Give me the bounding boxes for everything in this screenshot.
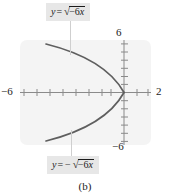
- y-axis-min-label: −6: [112, 141, 124, 152]
- callout-lower-equation: y=−√−6x: [47, 156, 99, 174]
- callout-connector-lower: [71, 130, 72, 157]
- x-axis-max-label: 2: [156, 86, 162, 97]
- callout-lower-radicand-variable: x: [88, 159, 92, 170]
- curve-lower-branch: [46, 93, 124, 142]
- callout-upper-equation: y=√−6x: [46, 3, 90, 21]
- callout-lower-radical-group: √−6x: [72, 159, 94, 170]
- callout-lower-radicand-coefficient: −6: [78, 159, 89, 170]
- callout-upper-radical-group: √−6x: [63, 6, 85, 17]
- x-axis-min-label: −6: [1, 86, 13, 97]
- callout-upper-radicand-coefficient: −6: [69, 6, 80, 17]
- curve-upper-branch: [46, 44, 124, 93]
- y-axis-max-label: 6: [116, 27, 122, 38]
- callout-lower-equals: =: [56, 159, 64, 170]
- figure-caption: (b): [0, 180, 170, 192]
- callout-upper-radicand-variable: x: [80, 6, 84, 17]
- callout-lower-sign: −: [64, 159, 72, 170]
- callout-upper-radicand: −6x: [69, 6, 85, 17]
- callout-connector-upper: [70, 19, 71, 55]
- callout-upper-equals: =: [55, 6, 63, 17]
- callout-lower-radicand: −6x: [78, 159, 94, 170]
- figure-container: y=√−6x y=−√−6x −6 2 6 −6 (b): [0, 0, 170, 196]
